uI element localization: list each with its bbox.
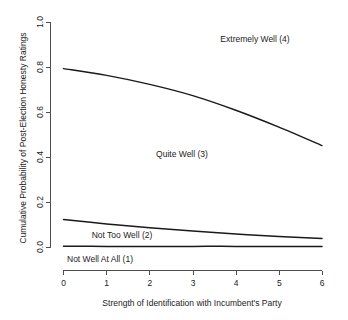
x-tick-label-0: 0 [61,278,66,288]
x-tick-label-4: 4 [234,278,239,288]
y-tick-label-0: 0.0 [35,241,45,253]
chart-figure: 1.0 0.8 0.6 0.4 0.2 0.0 0 1 2 3 4 5 6 [0,0,348,320]
y-axis-title: Cumulative Probability of Post-Election … [18,32,28,243]
x-axis-title: Strength of Identification with Incumben… [102,298,282,308]
annotation-not-too-well: Not Too Well (2) [92,230,153,240]
annotation-not-well-at-all: Not Well At All (1) [67,254,133,264]
y-tick-label-2: 0.4 [35,151,45,163]
x-axis-tick-labels: 0 1 2 3 4 5 6 [61,278,325,288]
annotation-quite-well: Quite Well (3) [156,149,208,159]
y-tick-label-4: 0.8 [35,61,45,73]
annotation-extremely-well: Extremely Well (4) [220,34,289,44]
x-tick-label-1: 1 [104,278,109,288]
y-tick-label-5: 1.0 [35,16,45,28]
cumulative-probability-line-chart: 1.0 0.8 0.6 0.4 0.2 0.0 0 1 2 3 4 5 6 [0,0,348,320]
y-tick-label-3: 0.6 [35,106,45,118]
x-tick-label-5: 5 [277,278,282,288]
x-tick-label-2: 2 [147,278,152,288]
y-axis-tick-labels: 1.0 0.8 0.6 0.4 0.2 0.0 [35,16,45,253]
curve-series-0 [64,69,323,146]
y-axis-ticks [46,23,51,248]
y-tick-label-1: 0.2 [35,196,45,208]
x-tick-label-3: 3 [191,278,196,288]
x-tick-label-6: 6 [320,278,325,288]
x-axis-ticks [64,271,323,276]
